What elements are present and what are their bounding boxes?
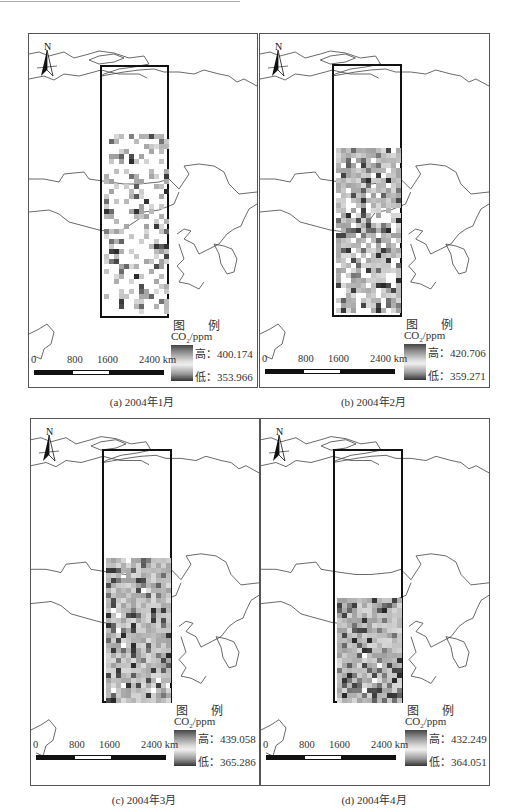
scale-bar-labels: 0 800 1600 2400 km	[33, 739, 163, 753]
caption-b: (b) 2004年2月	[259, 393, 488, 409]
scale-tick-800: 800	[67, 354, 83, 365]
map-panel-d: N 图 例 CO2/ppm 高：432.249 低：364.051 0 800 …	[260, 418, 490, 786]
study-area-rect	[102, 449, 172, 703]
legend-low-label: 低：365.286	[198, 753, 256, 769]
legend-unit: CO2/ppm	[174, 715, 215, 730]
north-arrow-icon: N	[266, 40, 290, 80]
north-label: N	[276, 426, 283, 437]
legend-low-label: 低：364.051	[429, 753, 487, 769]
co2-raster	[335, 451, 401, 701]
scale-tick-800: 800	[299, 739, 315, 750]
scale-tick-2400: 2400 km	[139, 354, 176, 365]
scale-bar	[265, 369, 395, 374]
legend-high-label: 高：400.174	[195, 345, 253, 361]
scale-tick-1600: 1600	[328, 353, 349, 364]
scale-bar	[36, 755, 166, 760]
scale-tick-800: 800	[298, 353, 314, 364]
caption-d: (d) 2004年4月	[260, 791, 488, 807]
co2-raster	[334, 66, 400, 315]
page-header-rule	[0, 1, 240, 2]
legend-high-label: 高：432.249	[429, 730, 487, 746]
scale-tick-0: 0	[33, 739, 38, 750]
scale-bar-labels: 0 800 1600 2400 km	[263, 739, 393, 753]
legend-high-label: 高：420.706	[428, 344, 486, 360]
study-area-rect	[100, 65, 169, 318]
legend-unit: CO2/ppm	[405, 715, 446, 730]
legend-color-ramp	[405, 730, 427, 766]
scale-tick-1600: 1600	[97, 354, 118, 365]
legend-unit: CO2/ppm	[171, 330, 212, 345]
scale-tick-2400: 2400 km	[371, 739, 408, 750]
scale-tick-800: 800	[69, 739, 85, 750]
scale-tick-0: 0	[31, 354, 36, 365]
scale-bar-labels: 0 800 1600 2400 km	[31, 354, 161, 368]
scale-tick-2400: 2400 km	[141, 739, 178, 750]
scale-tick-1600: 1600	[99, 739, 120, 750]
legend-unit: CO2/ppm	[404, 329, 445, 344]
caption-a: (a) 2004年1月	[28, 393, 256, 409]
co2-raster	[102, 67, 167, 316]
map-panel-b: N 图 例 CO2/ppm 高：420.706 低：359.271 0 800 …	[259, 33, 490, 388]
map-panel-a: N 图 例 CO2/ppm 高：400.174 低：353.966 0 800 …	[28, 33, 258, 388]
north-arrow-icon: N	[37, 425, 61, 465]
caption-c: (c) 2004年3月	[30, 791, 258, 807]
north-label: N	[44, 41, 51, 52]
scale-bar-labels: 0 800 1600 2400 km	[262, 353, 392, 367]
map-panel-c: N 图 例 CO2/ppm 高：439.058 低：365.286 0 800 …	[30, 418, 260, 786]
north-arrow-icon: N	[35, 40, 59, 80]
legend-high-label: 高：439.058	[198, 730, 256, 746]
study-area-rect	[332, 64, 402, 317]
study-area-rect	[333, 449, 403, 703]
scale-bar	[266, 755, 396, 760]
scale-tick-1600: 1600	[329, 739, 350, 750]
north-arrow-icon: N	[267, 425, 291, 465]
co2-raster	[104, 451, 170, 701]
legend-low-label: 低：359.271	[428, 367, 486, 383]
scale-tick-0: 0	[262, 353, 267, 364]
scale-tick-0: 0	[263, 739, 268, 750]
legend-color-ramp	[404, 344, 426, 380]
north-label: N	[275, 41, 282, 52]
legend-low-label: 低：353.966	[195, 368, 253, 384]
north-label: N	[46, 426, 53, 437]
scale-bar	[34, 370, 164, 375]
scale-tick-2400: 2400 km	[370, 353, 407, 364]
